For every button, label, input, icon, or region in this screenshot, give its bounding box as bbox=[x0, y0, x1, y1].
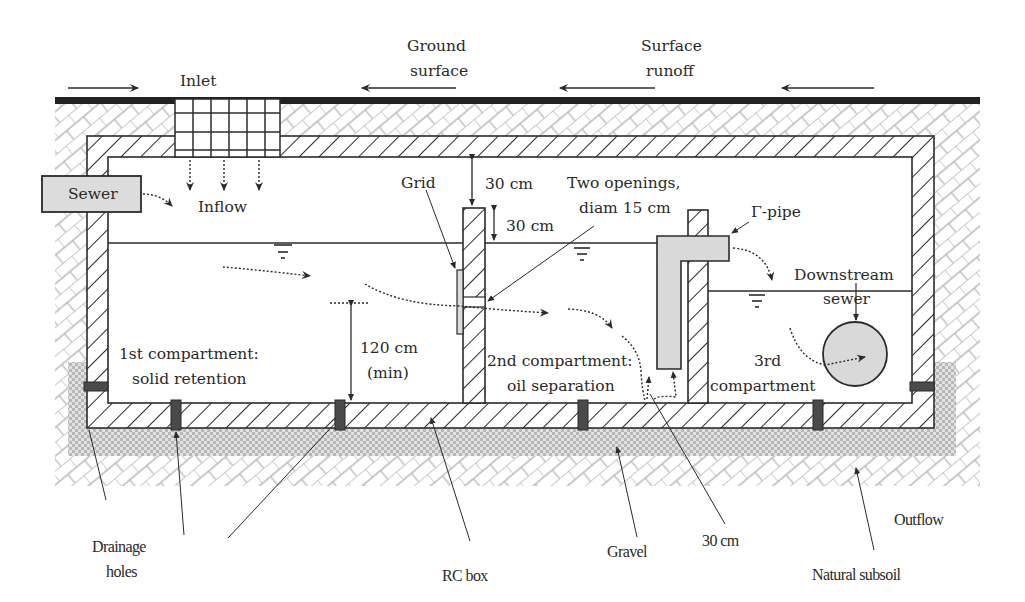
openings-label-1: Two openings, bbox=[567, 174, 680, 193]
rc-box-label: RC box bbox=[442, 566, 488, 585]
grid-screen bbox=[457, 270, 463, 334]
separator-diagram bbox=[0, 0, 1025, 602]
outflow-label: Outflow bbox=[894, 510, 943, 529]
inlet-grate bbox=[175, 99, 280, 157]
comp1-label-1: 1st compartment: bbox=[119, 345, 259, 364]
inflow-label: Inflow bbox=[198, 198, 247, 217]
runoff-label-1: Surface bbox=[641, 37, 702, 56]
downstream-label-2: sewer bbox=[823, 290, 870, 309]
depth-label-1: 120 cm bbox=[360, 339, 418, 358]
gap-label: 30 cm bbox=[702, 531, 739, 550]
grid-label: Grid bbox=[401, 174, 436, 193]
inlet-label: Inlet bbox=[180, 72, 216, 91]
sewer-label: Sewer bbox=[68, 185, 118, 204]
ground-label-2: surface bbox=[410, 62, 468, 81]
comp2-label-2: oil separation bbox=[507, 377, 615, 396]
freeboard-label: 30 cm bbox=[506, 217, 554, 236]
openings-label-2: diam 15 cm bbox=[579, 199, 671, 218]
subsoil-label: Natural subsoil bbox=[812, 565, 900, 584]
ground-label-1: Ground bbox=[407, 37, 466, 56]
comp1-label-2: solid retention bbox=[132, 370, 247, 389]
drainage-label-2: holes bbox=[106, 562, 137, 581]
depth-label-2: (min) bbox=[367, 364, 409, 383]
downstream-label-1: Downstream bbox=[794, 266, 894, 285]
gamma-pipe-label: Γ-pipe bbox=[751, 203, 801, 222]
drainage-label-1: Drainage bbox=[92, 537, 146, 556]
comp3-label-2: compartment bbox=[710, 377, 816, 396]
comp3-label-1: 3rd bbox=[754, 352, 781, 371]
runoff-label-2: runoff bbox=[646, 62, 694, 81]
gravel-label: Gravel bbox=[607, 542, 647, 561]
downstream-sewer-pipe bbox=[823, 322, 887, 386]
two-openings bbox=[463, 297, 485, 307]
comp2-label-1: 2nd compartment: bbox=[487, 352, 633, 371]
clearance-label: 30 cm bbox=[485, 175, 533, 194]
